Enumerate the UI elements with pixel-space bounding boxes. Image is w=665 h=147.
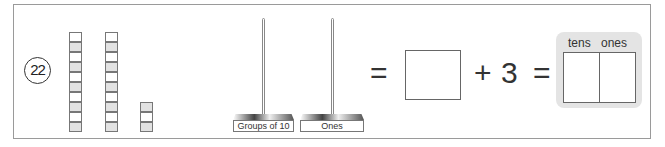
unit-cube [105,62,118,72]
tens-header: tens [568,36,591,50]
unit-cube [105,122,118,132]
ones-label: Ones [300,120,364,132]
unit-cube [105,92,118,102]
equals-sign-2: = [533,58,551,88]
ones-pole [331,18,334,116]
unit-cube [69,112,82,122]
answer-input-box[interactable] [405,50,461,100]
unit-cube [140,102,153,112]
unit-cube [69,42,82,52]
unit-cube [69,62,82,72]
unit-cube [105,32,118,42]
unit-cube [105,82,118,92]
tens-pole [262,18,265,116]
addend: 3 [501,58,518,88]
plus-sign: + [474,58,492,88]
unit-cube [69,92,82,102]
unit-cube [69,82,82,92]
unit-cube [105,72,118,82]
unit-cube [69,52,82,62]
equals-sign: = [370,58,388,88]
problem-number: 22 [24,57,51,84]
ones-header: ones [601,36,627,50]
unit-cube [105,102,118,112]
groups-of-10-label: Groups of 10 [233,120,294,132]
unit-cube [69,72,82,82]
ones-answer-cell[interactable] [599,52,636,103]
unit-cube [69,32,82,42]
unit-cube [69,102,82,112]
unit-cube [69,122,82,132]
unit-cube [105,112,118,122]
unit-cube [105,42,118,52]
unit-cube [140,122,153,132]
tens-answer-cell[interactable] [563,52,600,103]
unit-cube [140,112,153,122]
unit-cube [105,52,118,62]
